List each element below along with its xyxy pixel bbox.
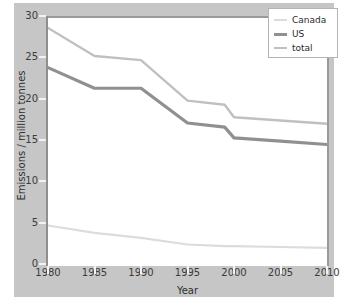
legend-label-us: US <box>292 29 304 39</box>
x-axis-title: Year <box>48 285 327 296</box>
chart-legend: Canada US total <box>268 8 338 58</box>
y-tick-mark <box>39 263 46 265</box>
legend-item-canada: Canada <box>274 13 333 27</box>
legend-item-total: total <box>274 41 333 55</box>
y-tick-label: 30 <box>4 11 38 21</box>
y-tick-mark <box>39 180 46 182</box>
x-tick-mark <box>233 266 235 274</box>
y-tick-mark <box>39 15 46 17</box>
x-tick-mark <box>280 266 282 274</box>
y-tick-label: 5 <box>4 218 38 228</box>
legend-line-icon-total <box>274 47 287 49</box>
series-line-us <box>48 68 327 145</box>
chart-figure: 051015202530 198019851990199520002005201… <box>0 0 347 305</box>
y-tick-mark <box>39 98 46 100</box>
y-tick-mark <box>39 222 46 224</box>
y-tick-mark <box>39 56 46 58</box>
y-axis-title: Emissions / million tonnes <box>16 61 27 211</box>
x-tick-mark <box>94 266 96 274</box>
x-tick-mark <box>187 266 189 274</box>
y-tick-mark <box>39 139 46 141</box>
legend-item-us: US <box>274 27 333 41</box>
x-tick-mark <box>47 266 49 274</box>
x-tick-mark <box>326 266 328 274</box>
legend-label-total: total <box>292 43 313 53</box>
legend-line-icon-canada <box>274 19 287 21</box>
x-tick-mark <box>140 266 142 274</box>
legend-label-canada: Canada <box>292 15 326 25</box>
legend-line-icon-us <box>274 33 287 36</box>
series-line-canada <box>48 225 327 247</box>
